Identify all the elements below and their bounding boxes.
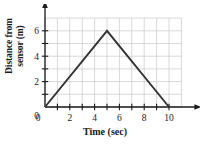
axis-variable-labels-group: xy	[49, 4, 200, 113]
distance-time-graph-figure: Distance from sensor (m) Time (sec) 0246…	[0, 0, 200, 147]
origin-tick-label: 0	[34, 111, 39, 121]
tick-marks-group	[42, 31, 169, 110]
x-tick-label: 4	[92, 113, 97, 123]
gridlines-group	[45, 18, 181, 107]
x-tick-label: 10	[164, 113, 174, 123]
x-tick-label: 6	[117, 113, 122, 123]
plot-area: 02468102460 xy	[24, 4, 200, 126]
x-tick-label: 2	[67, 113, 72, 123]
x-axis-title: Time (sec)	[40, 126, 170, 137]
y-tick-label: 6	[34, 26, 39, 36]
y-axis-title-line1: Distance from	[4, 0, 15, 96]
y-tick-label: 4	[34, 52, 39, 62]
x-axis-arrowhead-icon	[194, 104, 200, 110]
y-axis-arrowhead-icon	[42, 4, 48, 8]
x-tick-label: 8	[142, 113, 147, 123]
tick-labels-group: 02468102460	[34, 26, 174, 123]
y-tick-label: 2	[34, 77, 39, 87]
axes-group	[42, 4, 200, 110]
